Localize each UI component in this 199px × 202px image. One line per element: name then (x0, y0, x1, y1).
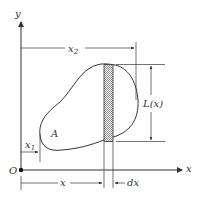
origin-label: O (9, 165, 17, 176)
y-axis-label: y (14, 8, 21, 19)
lx-label: L(x) (142, 98, 163, 109)
x-axis-label: x (186, 163, 192, 174)
region-label: A (50, 128, 58, 139)
dx-label: dx (127, 177, 139, 188)
differential-strip (104, 65, 113, 142)
origin-point (19, 168, 23, 172)
area-integration-diagram: y x O A x2 L(x) x1 x dx (0, 0, 199, 202)
x-dimension-label: x (60, 177, 66, 188)
x1-label: x1 (25, 139, 35, 152)
